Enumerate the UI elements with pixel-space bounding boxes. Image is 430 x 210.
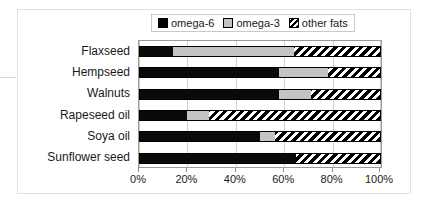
bar-segment-other-fats (209, 110, 381, 121)
x-axis-tick-label: 40% (224, 173, 246, 185)
x-axis-tick-label: 0% (130, 173, 146, 185)
legend-label-omega-6: omega-6 (171, 18, 214, 29)
bar-segment-omega-3 (173, 46, 294, 57)
plot-area (138, 40, 382, 168)
legend-swatch-omega-3-icon (223, 18, 233, 28)
y-axis-label-flaxseed: Flaxseed (18, 40, 134, 61)
legend-label-other-fats: other fats (302, 18, 348, 29)
legend-label-omega-3: omega-3 (236, 18, 279, 29)
bar-segment-omega-6 (139, 131, 260, 142)
bar-row (139, 126, 381, 147)
x-axis-tick (235, 168, 236, 172)
x-axis-tick (186, 168, 187, 172)
bar-row (139, 62, 381, 83)
bar-segment-other-fats (311, 89, 381, 100)
bar-segment-omega-3 (260, 131, 275, 142)
legend-item-omega-6: omega-6 (158, 18, 214, 29)
bar-row (139, 105, 381, 126)
y-axis-category-labels: FlaxseedHempseedWalnutsRapeseed oilSoya … (18, 40, 134, 168)
legend-swatch-other-fats-icon (289, 18, 299, 28)
bar-segment-omega-6 (139, 46, 173, 57)
stacked-bar (139, 67, 381, 78)
y-axis-label-hempseed: Hempseed (18, 61, 134, 82)
bar-row (139, 148, 381, 169)
stacked-bar (139, 110, 381, 121)
y-axis-label-soya-oil: Soya oil (18, 125, 134, 146)
legend-swatch-omega-6-icon (158, 18, 168, 28)
stacked-bar (139, 89, 381, 100)
chart-legend: omega-6 omega-3 other fats (151, 14, 355, 32)
x-axis-tick (283, 168, 284, 172)
stacked-bar (139, 131, 381, 142)
x-axis-tick (379, 168, 380, 172)
bar-segment-omega-6 (139, 89, 279, 100)
bar-segment-other-fats (275, 131, 381, 142)
bar-segment-other-fats (296, 153, 381, 164)
bar-segment-other-fats (328, 67, 381, 78)
x-axis-labels: 0%20%40%60%80%100% (138, 173, 382, 187)
x-axis-ticks (138, 168, 382, 172)
legend-item-other-fats: other fats (289, 18, 348, 29)
x-axis-tick-label: 60% (272, 173, 294, 185)
x-axis-tick-label: 20% (175, 173, 197, 185)
legend-item-omega-3: omega-3 (223, 18, 279, 29)
y-axis-label-rapeseed-oil: Rapeseed oil (18, 104, 134, 125)
bar-series-container (139, 41, 381, 167)
bar-segment-other-fats (294, 46, 381, 57)
stacked-bar (139, 46, 381, 57)
bar-segment-omega-3 (279, 89, 310, 100)
x-axis-tick (332, 168, 333, 172)
x-axis-tick (138, 168, 139, 172)
bar-row (139, 41, 381, 62)
bar-segment-omega-6 (139, 67, 279, 78)
x-axis-tick-label: 80% (321, 173, 343, 185)
stacked-bar (139, 153, 381, 164)
bar-segment-omega-6 (139, 110, 187, 121)
bar-row (139, 84, 381, 105)
x-axis-tick-label: 100% (365, 173, 393, 185)
bar-segment-omega-3 (187, 110, 209, 121)
y-axis-label-sunflower-seed: Sunflower seed (18, 147, 134, 168)
y-axis-label-walnuts: Walnuts (18, 83, 134, 104)
bar-segment-omega-6 (139, 153, 296, 164)
stray-edge-mark (0, 77, 16, 78)
bar-segment-omega-3 (279, 67, 327, 78)
